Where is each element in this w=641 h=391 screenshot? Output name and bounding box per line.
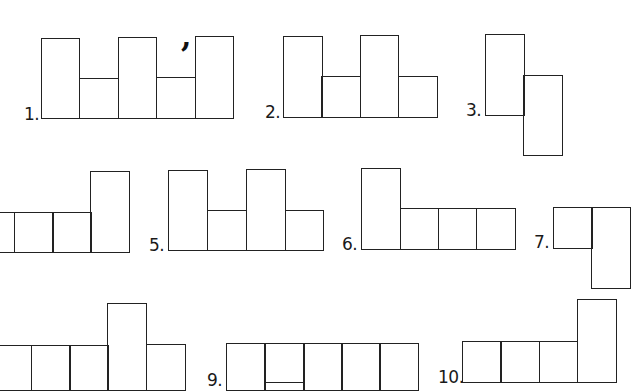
rectangle-face: [52, 212, 92, 253]
comma-mark: ,: [181, 22, 191, 52]
rectangle-face: [553, 207, 593, 249]
rectangle-face: [0, 212, 15, 253]
rectangle-face: [246, 169, 286, 251]
rectangle-face: [400, 208, 439, 250]
rectangle-face: [264, 343, 305, 391]
rectangle-face: [360, 35, 399, 118]
rectangle-face: [476, 208, 516, 250]
figure-number-label: 3.: [466, 102, 481, 119]
rectangle-face: [539, 341, 578, 383]
rectangle-face: [500, 341, 540, 383]
inner-edge-line: [264, 382, 304, 383]
rectangle-face: [14, 212, 54, 253]
rectangle-face: [523, 75, 563, 156]
rectangle-face: [146, 344, 186, 391]
rectangle-face: [69, 345, 109, 391]
figure-number-label: 7.: [534, 234, 549, 251]
figure-number-label: 2.: [265, 104, 280, 121]
rectangle-face: [577, 299, 617, 383]
rectangle-face: [107, 303, 147, 391]
rectangle-face: [156, 77, 196, 119]
rectangle-face: [398, 76, 438, 118]
rectangle-face: [303, 343, 343, 391]
rectangle-face: [207, 210, 247, 251]
figure-number-label: 6.: [342, 236, 357, 253]
rectangle-face: [195, 36, 234, 119]
rectangle-face: [485, 34, 525, 116]
rectangle-face: [90, 171, 130, 253]
rectangle-face: [41, 38, 80, 119]
rectangle-face: [361, 168, 401, 250]
rectangle-face: [438, 208, 477, 250]
figure-number-label: 9.: [207, 372, 222, 389]
rectangle-face: [591, 207, 631, 289]
rectangle-face: [226, 343, 266, 391]
rectangle-face: [462, 341, 502, 383]
rectangle-face: [168, 170, 208, 251]
figure-number-label: 5.: [149, 237, 164, 254]
rectangle-face: [118, 37, 157, 119]
rectangle-face: [31, 345, 71, 391]
rectangle-face: [379, 343, 419, 391]
rectangle-face: [321, 76, 361, 118]
rectangle-face: [341, 343, 381, 391]
figure-number-label: 1.: [24, 106, 39, 123]
rectangle-face: [283, 36, 323, 118]
rectangle-face: [285, 210, 324, 251]
rectangle-face: [0, 345, 32, 391]
figure-number-label: 10.: [438, 369, 464, 386]
rectangle-face: [79, 78, 119, 119]
